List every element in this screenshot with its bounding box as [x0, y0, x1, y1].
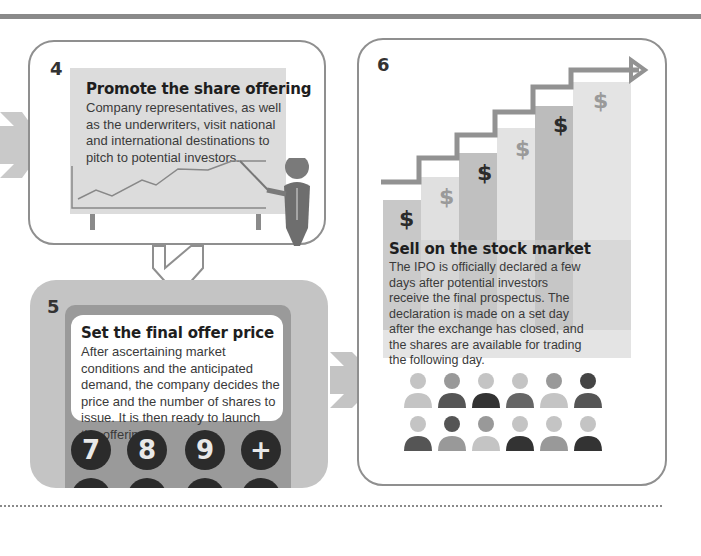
svg-text:$: $	[593, 88, 608, 113]
step-number: 4	[50, 58, 63, 79]
step-title: Set the final offer price	[81, 324, 274, 342]
presentation-chart-icon	[70, 158, 340, 248]
calculator-key-plus: +	[241, 430, 281, 470]
step-title: Promote the share offering	[86, 80, 311, 98]
svg-text:$: $	[515, 136, 530, 161]
step-description: Company representatives, as well as the …	[86, 100, 286, 166]
step-6-panel: 6 $ $ $ $ $ $ Sell on the stock market T…	[357, 38, 667, 486]
step-description: After ascertaining market conditions and…	[81, 344, 281, 443]
step-description: The IPO is officially declared a few day…	[389, 260, 589, 369]
bottom-dotted-divider	[0, 505, 662, 507]
svg-text:$: $	[553, 112, 568, 137]
svg-text:$: $	[477, 160, 492, 185]
svg-text:$: $	[439, 184, 454, 209]
step-title: Sell on the stock market	[389, 240, 591, 258]
calculator-key-7: 7	[71, 430, 111, 470]
svg-text:$: $	[399, 206, 414, 231]
investors-crowd-icon	[403, 370, 613, 462]
calculator-key-9: 9	[185, 430, 225, 470]
top-divider	[0, 14, 701, 19]
step-5-panel: 5 Set the final offer price After ascert…	[30, 280, 328, 488]
step-4-panel: 4 Promote the share offering Company rep…	[28, 40, 326, 245]
calculator-key-8: 8	[127, 430, 167, 470]
step-number: 5	[47, 296, 60, 317]
